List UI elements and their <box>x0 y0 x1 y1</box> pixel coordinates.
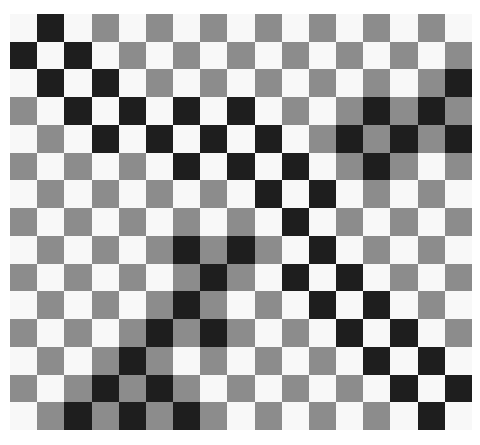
cell-white-r14-c8 <box>227 402 254 430</box>
cell-gray-r1-c12 <box>336 42 363 70</box>
cell-gray-r10-c3 <box>92 291 119 319</box>
cell-white-r10-c14 <box>390 291 417 319</box>
cell-white-r10-c0 <box>10 291 37 319</box>
cell-black-r5-c10 <box>282 153 309 181</box>
cell-white-r2-c10 <box>282 69 309 97</box>
cell-gray-r10-c1 <box>37 291 64 319</box>
cell-gray-r12-c9 <box>255 347 282 375</box>
cell-white-r1-c5 <box>146 42 173 70</box>
cell-gray-r11-c10 <box>282 319 309 347</box>
cell-white-r0-c16 <box>445 14 472 42</box>
cell-white-r5-c1 <box>37 153 64 181</box>
cell-gray-r9-c8 <box>227 264 254 292</box>
cell-white-r6-c0 <box>10 180 37 208</box>
cell-white-r6-c8 <box>227 180 254 208</box>
cell-gray-r10-c9 <box>255 291 282 319</box>
cell-white-r7-c7 <box>200 208 227 236</box>
cell-white-r11-c1 <box>37 319 64 347</box>
cell-black-r4-c14 <box>390 125 417 153</box>
cell-black-r10-c11 <box>309 291 336 319</box>
cell-white-r10-c2 <box>64 291 91 319</box>
cell-white-r13-c7 <box>200 375 227 403</box>
cell-gray-r5-c2 <box>64 153 91 181</box>
cell-black-r14-c6 <box>173 402 200 430</box>
cell-white-r6-c16 <box>445 180 472 208</box>
cell-white-r3-c11 <box>309 97 336 125</box>
cell-gray-r11-c6 <box>173 319 200 347</box>
cell-white-r2-c4 <box>119 69 146 97</box>
cell-white-r8-c4 <box>119 236 146 264</box>
cell-gray-r6-c7 <box>200 180 227 208</box>
cell-white-r14-c14 <box>390 402 417 430</box>
cell-gray-r1-c6 <box>173 42 200 70</box>
cell-gray-r0-c7 <box>200 14 227 42</box>
cell-gray-r2-c5 <box>146 69 173 97</box>
cell-white-r1-c3 <box>92 42 119 70</box>
cell-gray-r3-c12 <box>336 97 363 125</box>
cell-black-r13-c16 <box>445 375 472 403</box>
cell-white-r8-c10 <box>282 236 309 264</box>
cell-gray-r14-c13 <box>363 402 390 430</box>
cell-white-r8-c0 <box>10 236 37 264</box>
cell-gray-r13-c4 <box>119 375 146 403</box>
cell-gray-r14-c5 <box>146 402 173 430</box>
cell-gray-r14-c3 <box>92 402 119 430</box>
cell-gray-r12-c1 <box>37 347 64 375</box>
cell-gray-r13-c12 <box>336 375 363 403</box>
cell-white-r2-c6 <box>173 69 200 97</box>
cell-black-r8-c8 <box>227 236 254 264</box>
cell-white-r8-c16 <box>445 236 472 264</box>
cell-gray-r7-c6 <box>173 208 200 236</box>
cell-gray-r4-c15 <box>418 125 445 153</box>
cell-black-r6-c9 <box>255 180 282 208</box>
cell-white-r0-c6 <box>173 14 200 42</box>
cell-white-r9-c1 <box>37 264 64 292</box>
cell-gray-r9-c14 <box>390 264 417 292</box>
cell-white-r0-c4 <box>119 14 146 42</box>
cell-gray-r10-c15 <box>418 291 445 319</box>
cell-white-r12-c14 <box>390 347 417 375</box>
cell-white-r9-c11 <box>309 264 336 292</box>
cell-black-r4-c9 <box>255 125 282 153</box>
cell-gray-r7-c12 <box>336 208 363 236</box>
cell-gray-r7-c0 <box>10 208 37 236</box>
cell-gray-r0-c11 <box>309 14 336 42</box>
cell-gray-r13-c2 <box>64 375 91 403</box>
cell-gray-r13-c8 <box>227 375 254 403</box>
cell-black-r1-c2 <box>64 42 91 70</box>
cell-white-r7-c3 <box>92 208 119 236</box>
cell-white-r12-c0 <box>10 347 37 375</box>
checkerboard-pattern <box>10 14 472 430</box>
cell-black-r7-c10 <box>282 208 309 236</box>
cell-white-r6-c6 <box>173 180 200 208</box>
cell-white-r5-c15 <box>418 153 445 181</box>
cell-gray-r2-c13 <box>363 69 390 97</box>
cell-gray-r8-c5 <box>146 236 173 264</box>
cell-white-r0-c2 <box>64 14 91 42</box>
cell-gray-r11-c16 <box>445 319 472 347</box>
cell-gray-r8-c13 <box>363 236 390 264</box>
cell-white-r6-c10 <box>282 180 309 208</box>
cell-white-r13-c9 <box>255 375 282 403</box>
cell-white-r5-c11 <box>309 153 336 181</box>
cell-white-r2-c12 <box>336 69 363 97</box>
cell-gray-r9-c6 <box>173 264 200 292</box>
cell-gray-r10-c5 <box>146 291 173 319</box>
cell-gray-r5-c0 <box>10 153 37 181</box>
cell-white-r14-c0 <box>10 402 37 430</box>
cell-white-r6-c12 <box>336 180 363 208</box>
cell-white-r10-c4 <box>119 291 146 319</box>
cell-white-r0-c12 <box>336 14 363 42</box>
cell-gray-r1-c10 <box>282 42 309 70</box>
cell-white-r10-c8 <box>227 291 254 319</box>
cell-white-r8-c12 <box>336 236 363 264</box>
cell-black-r5-c13 <box>363 153 390 181</box>
cell-gray-r4-c1 <box>37 125 64 153</box>
cell-white-r7-c1 <box>37 208 64 236</box>
cell-white-r4-c2 <box>64 125 91 153</box>
cell-gray-r5-c14 <box>390 153 417 181</box>
cell-black-r3-c2 <box>64 97 91 125</box>
cell-gray-r8-c9 <box>255 236 282 264</box>
cell-white-r4-c8 <box>227 125 254 153</box>
cell-white-r5-c5 <box>146 153 173 181</box>
